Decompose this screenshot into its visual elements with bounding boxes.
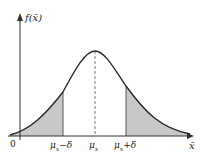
left-tail-shade bbox=[10, 92, 63, 136]
tick-lower-bound: μx−δ bbox=[50, 140, 72, 152]
tick-mean: μx bbox=[89, 140, 98, 152]
origin-label: 0 bbox=[10, 139, 16, 149]
right-tail-shade bbox=[126, 86, 190, 136]
tick-upper-bound: μx+δ bbox=[114, 140, 136, 152]
normal-curve-diagram bbox=[0, 0, 200, 166]
y-axis-label: f(x̄) bbox=[25, 12, 42, 23]
x-axis-label: x̄ bbox=[189, 140, 195, 151]
y-axis-arrow-icon bbox=[17, 13, 23, 21]
